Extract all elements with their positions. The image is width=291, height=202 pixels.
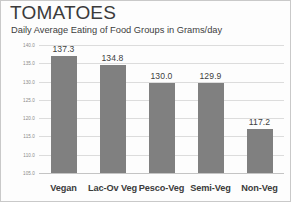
- bar-value-label: 134.8: [101, 53, 123, 63]
- x-axis-tick-slot: Vegan: [39, 177, 88, 195]
- bar[interactable]: [100, 65, 126, 174]
- bar-slot: 117.2: [235, 46, 284, 174]
- chart-container: TOMATOES Daily Average Eating of Food Gr…: [0, 0, 291, 202]
- bar-value-label: 137.3: [52, 44, 74, 54]
- bar[interactable]: [247, 129, 273, 174]
- bar-value-label: 117.2: [249, 117, 270, 127]
- bar-value-label: 129.9: [199, 71, 221, 81]
- plot-area: 140.0135.0130.0125.0120.0115.0110.0105.0…: [39, 46, 284, 174]
- bar[interactable]: [51, 56, 77, 174]
- x-axis-tick-label: Semi-Veg: [190, 183, 231, 193]
- bar-slot: 129.9: [186, 46, 235, 174]
- y-axis-tick-label: 115.0: [23, 134, 35, 139]
- x-axis-tick-label: Lac-Ov Veg: [88, 183, 137, 193]
- chart-subtitle: Daily Average Eating of Food Groups in G…: [11, 25, 222, 36]
- x-axis-tick-slot: Non-Veg: [235, 177, 284, 195]
- bar-slot: 134.8: [88, 46, 137, 174]
- y-axis-tick-label: 135.0: [23, 61, 35, 66]
- bar-slot: 137.3: [39, 46, 88, 174]
- chart-title: TOMATOES: [10, 2, 116, 23]
- y-axis-tick-label: 130.0: [23, 79, 35, 84]
- x-axis-tick-slot: Lac-Ov Veg: [88, 177, 137, 195]
- y-axis-tick-label: 110.0: [23, 152, 35, 157]
- bar[interactable]: [198, 83, 224, 174]
- bar[interactable]: [149, 83, 175, 174]
- x-axis-tick-slot: Semi-Veg: [186, 177, 235, 195]
- bar-slot: 130.0: [137, 46, 186, 174]
- y-axis-tick-label: 120.0: [23, 116, 35, 121]
- x-axis-labels: VeganLac-Ov VegPesco-VegSemi-VegNon-Veg: [39, 177, 284, 195]
- x-axis-tick-slot: Pesco-Veg: [137, 177, 186, 195]
- x-axis-tick-label: Non-Veg: [241, 183, 278, 193]
- y-axis-tick-label: 105.0: [23, 171, 35, 176]
- x-axis-tick-label: Pesco-Veg: [139, 183, 185, 193]
- y-axis-tick-label: 140.0: [23, 43, 35, 48]
- y-axis-tick-label: 125.0: [23, 97, 35, 102]
- x-axis-tick-label: Vegan: [50, 183, 77, 193]
- bar-value-label: 130.0: [150, 71, 172, 81]
- x-axis-baseline: [39, 173, 284, 174]
- bars-layer: 137.3134.8130.0129.9117.2: [39, 46, 284, 174]
